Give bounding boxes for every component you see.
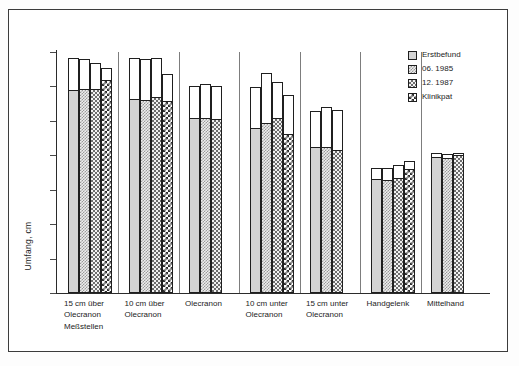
bar-fill-6-1 bbox=[372, 179, 381, 292]
bar-6-erstbefund bbox=[371, 168, 382, 293]
fine-checker-swatch bbox=[408, 65, 417, 74]
bar-fill-5-3 bbox=[333, 150, 342, 292]
bar-fill-2-4 bbox=[163, 101, 172, 292]
bar-fill-6-3 bbox=[394, 178, 403, 292]
x-tick-label-5: 15 cm unter Olecranon bbox=[306, 299, 368, 320]
bar-fill-7-3 bbox=[454, 155, 463, 292]
bar-fill-4-2 bbox=[262, 123, 271, 292]
bar-fill-2-2 bbox=[141, 100, 150, 292]
y-tick-20 bbox=[50, 155, 56, 156]
bar-1-06-1985 bbox=[79, 59, 90, 293]
x-tick-label-7: Mittelhand bbox=[427, 299, 489, 310]
bar-fill-1-2 bbox=[80, 89, 89, 292]
bar-4-06-1985 bbox=[261, 73, 272, 293]
bar-fill-7-2 bbox=[443, 158, 452, 292]
bar-fill-6-2 bbox=[383, 180, 392, 292]
bar-fill-2-3 bbox=[152, 97, 161, 292]
bar-2-12-1987 bbox=[151, 58, 162, 293]
bar-6-12-1987 bbox=[393, 165, 404, 293]
bar-fill-3-2 bbox=[201, 118, 210, 292]
x-tick-label-4: 10 cm unter Olecranon bbox=[246, 299, 308, 320]
bar-fill-1-3 bbox=[91, 89, 100, 292]
bar-fill-1-1 bbox=[69, 90, 78, 292]
bar-fill-6-4 bbox=[405, 169, 414, 292]
x-axis-line bbox=[50, 293, 490, 294]
bar-3-erstbefund bbox=[189, 86, 200, 293]
bar-fill-4-1 bbox=[251, 128, 260, 292]
bar-7-erstbefund bbox=[431, 153, 442, 293]
bar-6-klinikpat bbox=[404, 161, 415, 293]
bar-3-06-1985 bbox=[200, 84, 211, 293]
bar-7-12-1987 bbox=[453, 153, 464, 293]
y-axis-title: Umfang, cm bbox=[23, 211, 33, 281]
bar-2-erstbefund bbox=[129, 58, 140, 293]
x-tick-label-3: Olecranon bbox=[185, 299, 247, 310]
bar-1-klinikpat bbox=[101, 68, 112, 293]
group-separator-3 bbox=[239, 52, 240, 293]
bar-2-06-1985 bbox=[140, 59, 151, 293]
y-tick-0 bbox=[50, 293, 56, 294]
solid-light-grey-swatch bbox=[408, 51, 417, 60]
y-tick-10 bbox=[50, 224, 56, 225]
legend-label-3: 12. 1987 bbox=[422, 79, 453, 87]
bar-fill-5-2 bbox=[322, 147, 331, 292]
x-axis-title: Meßstellen bbox=[64, 322, 103, 332]
y-axis-ticks: 05101520253035 bbox=[0, 0, 57, 366]
bar-fill-3-3 bbox=[212, 119, 221, 292]
group-separator-2 bbox=[179, 52, 180, 293]
x-tick-label-1: 15 cm über Olecranon bbox=[64, 299, 126, 320]
bar-fill-4-4 bbox=[284, 134, 293, 292]
bar-5-06-1985 bbox=[321, 107, 332, 293]
bar-4-erstbefund bbox=[250, 87, 261, 293]
bar-5-erstbefund bbox=[310, 111, 321, 293]
group-separator-6 bbox=[421, 52, 422, 293]
bar-1-12-1987 bbox=[90, 63, 101, 293]
group-separator-1 bbox=[118, 52, 119, 293]
group-separator-4 bbox=[300, 52, 301, 293]
bar-fill-7-1 bbox=[432, 157, 441, 292]
y-tick-25 bbox=[50, 121, 56, 122]
legend-label-2: 06. 1985 bbox=[422, 65, 453, 73]
bar-fill-1-4 bbox=[102, 80, 111, 292]
legend-label-1: Erstbefund bbox=[422, 51, 461, 59]
bar-fill-3-1 bbox=[190, 118, 199, 292]
legend-label-4: Klinikpat bbox=[422, 93, 452, 101]
bar-fill-5-1 bbox=[311, 147, 320, 292]
bar-7-06-1985 bbox=[442, 154, 453, 293]
bar-fill-2-1 bbox=[130, 99, 139, 292]
bar-6-06-1985 bbox=[382, 168, 393, 293]
bar-3-12-1987 bbox=[211, 86, 222, 293]
y-tick-30 bbox=[50, 86, 56, 87]
x-tick-label-6: Handgelenk bbox=[367, 299, 429, 310]
medium-checker-swatch bbox=[408, 79, 417, 88]
figure-canvas: 05101520253035 Umfang, cm Meßstellen Ers… bbox=[0, 0, 519, 366]
bar-5-12-1987 bbox=[332, 110, 343, 293]
y-tick-5 bbox=[50, 259, 56, 260]
group-separator-5 bbox=[360, 52, 361, 293]
bar-4-12-1987 bbox=[272, 82, 283, 293]
y-tick-35 bbox=[50, 52, 56, 53]
bar-2-klinikpat bbox=[162, 74, 173, 293]
coarse-checker-swatch bbox=[408, 93, 417, 102]
bar-4-klinikpat bbox=[283, 95, 294, 293]
bar-fill-4-3 bbox=[273, 118, 282, 292]
x-tick-label-2: 10 cm über Olecranon bbox=[125, 299, 187, 320]
y-tick-15 bbox=[50, 190, 56, 191]
bar-1-erstbefund bbox=[68, 58, 79, 293]
